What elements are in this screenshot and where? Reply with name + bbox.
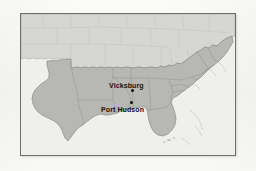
map-figure: Vicksburg Port Hudson bbox=[0, 0, 256, 171]
city-marker-port-hudson bbox=[130, 101, 133, 104]
city-label-vicksburg: Vicksburg bbox=[109, 82, 144, 89]
city-marker-vicksburg bbox=[131, 89, 134, 92]
map-frame: Vicksburg Port Hudson bbox=[20, 13, 236, 156]
city-label-port-hudson: Port Hudson bbox=[101, 106, 144, 113]
